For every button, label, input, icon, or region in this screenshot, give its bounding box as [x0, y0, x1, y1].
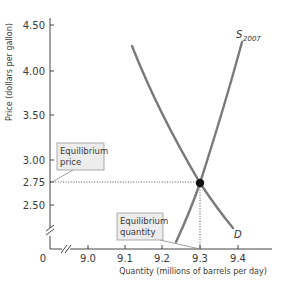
origin-label: 0 [40, 253, 46, 264]
demand-curve [132, 46, 233, 228]
chart-figure: Price (dollars per gallon) 4.50 4.00 3.5… [0, 0, 284, 286]
x-tick-9-0: 9.0 [80, 253, 96, 264]
x-axis [50, 245, 272, 253]
y-tick-4-50: 4.50 [23, 20, 45, 31]
y-tick-labels: 4.50 4.00 3.50 3.00 2.75 2.50 [23, 20, 45, 211]
y-tick-4-00: 4.00 [23, 66, 45, 77]
x-tick-9-3: 9.3 [192, 253, 208, 264]
svg-text:quantity: quantity [120, 227, 155, 237]
svg-text:price: price [60, 157, 81, 167]
equilibrium-point [196, 179, 204, 187]
supply-label: S 2007 [236, 29, 261, 43]
x-axis-title: Quantity (millions of barrels per day) [119, 267, 267, 276]
x-tick-9-2: 9.2 [154, 253, 170, 264]
svg-text:S: S [236, 29, 243, 40]
x-tick-9-1: 9.1 [117, 253, 133, 264]
svg-text:Equilibrium: Equilibrium [120, 216, 168, 226]
y-tick-3-50: 3.50 [23, 110, 45, 121]
demand-label: D [234, 229, 242, 240]
y-axis-title: Price (dollars per gallon) [5, 23, 14, 121]
equilibrium-price-callout: Equilibrium price [52, 143, 108, 182]
svg-text:Equilibrium: Equilibrium [60, 146, 108, 156]
y-axis [46, 18, 54, 249]
y-tick-3-00: 3.00 [23, 155, 45, 166]
x-tick-labels: 0 9.0 9.1 9.2 9.3 9.4 [40, 253, 246, 264]
x-tick-9-4: 9.4 [230, 253, 246, 264]
y-tick-2-75: 2.75 [23, 177, 45, 188]
y-tick-2-50: 2.50 [23, 200, 45, 211]
supply-curve [176, 42, 242, 242]
svg-text:2007: 2007 [243, 35, 261, 43]
